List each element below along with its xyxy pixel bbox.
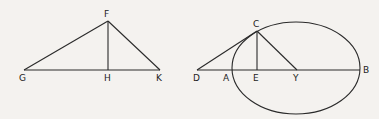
segment-DC — [197, 31, 257, 70]
label-E: E — [253, 73, 259, 83]
ellipse-figure: C D A E Y B — [193, 19, 369, 114]
segment-FK — [108, 21, 160, 70]
label-K: K — [156, 73, 163, 83]
label-B: B — [363, 65, 369, 75]
label-Y: Y — [292, 73, 299, 83]
segment-GF — [24, 21, 108, 70]
ellipse — [232, 22, 360, 114]
label-D: D — [193, 73, 200, 83]
label-C: C — [253, 19, 259, 29]
triangle-figure: F G H K — [19, 9, 163, 83]
label-F: F — [104, 9, 109, 19]
label-A: A — [223, 73, 230, 83]
label-H: H — [104, 73, 111, 83]
geometry-diagram: F G H K C D A E Y B — [0, 0, 379, 119]
segment-CY — [257, 31, 297, 70]
label-G: G — [19, 73, 26, 83]
